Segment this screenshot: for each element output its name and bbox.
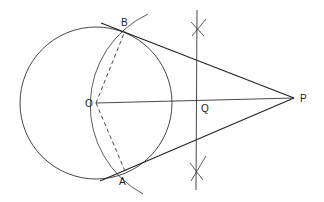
label-b: B (121, 17, 128, 28)
label-q: Q (201, 103, 209, 114)
line-op (96, 98, 294, 103)
radius-oa (96, 103, 125, 171)
tangent-pb (101, 23, 294, 98)
radius-ob (96, 31, 125, 103)
label-p: P (300, 93, 307, 104)
label-a: A (119, 176, 126, 187)
bisector-arc-bottom-2 (191, 156, 206, 181)
perpendicular-bisector (196, 10, 197, 190)
tangent-pa (100, 98, 294, 181)
geometry-diagram: B A O P Q (0, 0, 324, 202)
bisector-arc-top-2 (192, 19, 206, 36)
label-o: O (85, 98, 93, 109)
